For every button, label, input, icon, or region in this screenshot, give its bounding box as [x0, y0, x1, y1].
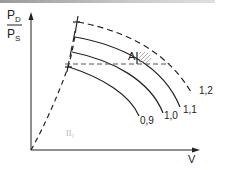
label-1-1: 1,1	[183, 104, 197, 115]
diagram: PD PS · V A 0,9 1,0 1,1 1,2 II₂	[0, 0, 226, 170]
label-0-9: 0,9	[140, 115, 154, 126]
y-axis-denominator: PS	[7, 27, 20, 43]
point-a-label: A	[128, 50, 136, 62]
curve-1-1	[75, 37, 180, 107]
x-axis-label: V	[188, 153, 196, 165]
faint-label: II₂	[66, 129, 74, 138]
label-1-0: 1,0	[164, 110, 178, 121]
y-axis-numerator: PD	[7, 8, 21, 24]
y-axis-arrow-icon	[29, 12, 34, 20]
label-1-2: 1,2	[199, 85, 213, 96]
axes	[31, 18, 196, 150]
curve-1-0	[72, 52, 163, 113]
